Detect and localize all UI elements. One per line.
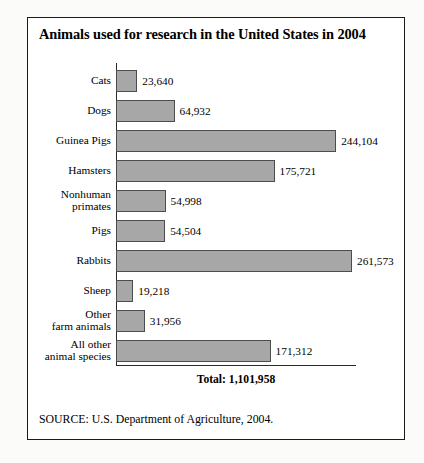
bar-row: Pigs54,504: [28, 216, 406, 246]
bar-track: 64,932: [116, 96, 406, 126]
bar-category-label: Sheep: [0, 276, 116, 306]
bar-value-label: 19,218: [138, 285, 169, 297]
bar: [116, 130, 336, 152]
bar-category-label-line: primates: [72, 201, 111, 213]
bar-value-label: 171,312: [276, 345, 313, 357]
bar-value-label: 54,504: [170, 225, 201, 237]
bar: [116, 280, 133, 302]
bar-value-label: 23,640: [142, 75, 173, 87]
bar-row: Guinea Pigs244,104: [28, 126, 406, 156]
bar-track: 31,956: [116, 306, 406, 336]
bar-category-label-line: Rabbits: [76, 255, 111, 267]
bar-row: Nonhumanprimates54,998: [28, 186, 406, 216]
bar-category-label-line: Dogs: [87, 105, 111, 117]
bar-category-label-line: Cats: [91, 75, 111, 87]
bar-category-label-line: animal species: [45, 351, 111, 363]
bar-track: 19,218: [116, 276, 406, 306]
bar-category-label: Otherfarm animals: [0, 306, 116, 336]
bar-category-label-line: Pigs: [92, 225, 111, 237]
bar-row: Dogs64,932: [28, 96, 406, 126]
bar-value-label: 261,573: [357, 255, 394, 267]
bar-track: 23,640: [116, 66, 406, 96]
bar-track: 261,573: [116, 246, 406, 276]
source-note: SOURCE: U.S. Department of Agriculture, …: [39, 412, 273, 427]
bar-category-label-line: Hamsters: [68, 165, 111, 177]
bar-value-label: 64,932: [180, 105, 211, 117]
bar-row: All otheranimal species171,312: [28, 336, 406, 366]
bar-chart: Cats23,640Dogs64,932Guinea Pigs244,104Ha…: [28, 63, 406, 383]
bar: [116, 250, 352, 272]
bar-category-label-line: Guinea Pigs: [56, 135, 111, 147]
bar-rows: Cats23,640Dogs64,932Guinea Pigs244,104Ha…: [28, 66, 406, 366]
bar-track: 244,104: [116, 126, 406, 156]
bar-value-label: 54,998: [171, 195, 202, 207]
bar-track: 54,504: [116, 216, 406, 246]
bar-track: 175,721: [116, 156, 406, 186]
bar: [116, 70, 137, 92]
bar-row: Otherfarm animals31,956: [28, 306, 406, 336]
bar-category-label: Hamsters: [0, 156, 116, 186]
bar-row: Sheep19,218: [28, 276, 406, 306]
bar-row: Hamsters175,721: [28, 156, 406, 186]
bar-category-label-line: farm animals: [52, 321, 111, 333]
bar-value-label: 175,721: [280, 165, 317, 177]
bar-value-label: 31,956: [150, 315, 181, 327]
bar-row: Rabbits261,573: [28, 246, 406, 276]
bar-category-label: Guinea Pigs: [0, 126, 116, 156]
bar-category-label: All otheranimal species: [0, 336, 116, 366]
bar-category-label: Rabbits: [0, 246, 116, 276]
figure-title: Animals used for research in the United …: [39, 26, 366, 43]
bar-category-label-line: Sheep: [83, 285, 111, 297]
bar-category-label: Cats: [0, 66, 116, 96]
bar-category-label: Dogs: [0, 96, 116, 126]
bar-track: 54,998: [116, 186, 406, 216]
bar: [116, 340, 271, 362]
bar-track: 171,312: [116, 336, 406, 366]
bar-category-label: Nonhumanprimates: [0, 186, 116, 216]
bar: [116, 220, 165, 242]
figure-container: Animals used for research in the United …: [27, 17, 405, 440]
bar: [116, 310, 145, 332]
bar-value-label: 244,104: [341, 135, 378, 147]
bar: [116, 100, 175, 122]
bar-category-label: Pigs: [0, 216, 116, 246]
bar-row: Cats23,640: [28, 66, 406, 96]
chart-total-label: Total: 1,101,958: [116, 373, 356, 386]
bar: [116, 160, 275, 182]
bar: [116, 190, 166, 212]
